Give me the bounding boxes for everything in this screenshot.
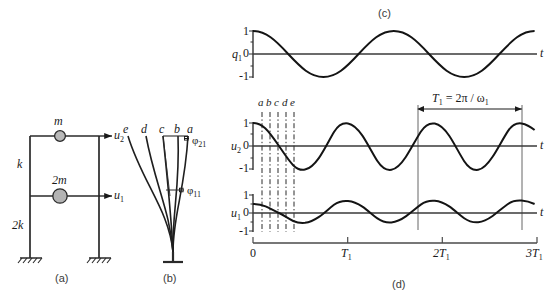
phi11-label: φ11 — [187, 184, 201, 199]
support-left — [18, 258, 42, 263]
panel-caption-c: (c) — [378, 7, 391, 19]
u2-marker-label-e: e — [290, 96, 295, 108]
q1-ytick-zero: 0 — [243, 46, 249, 61]
q1-ytick-bottom: -1 — [239, 69, 249, 84]
u2-ytick-top: 1 — [243, 116, 249, 131]
plot-q1 — [249, 30, 537, 78]
modeshape-label-c: c — [159, 122, 164, 137]
dof-label-u1: u1 — [114, 188, 124, 204]
frame-diagram — [18, 131, 112, 263]
q1-xaxis-label: t — [540, 46, 543, 61]
q1-axis-label: q1 — [232, 47, 242, 63]
phi21-label: φ21 — [192, 134, 206, 149]
u2-marker-label-a: a — [258, 96, 264, 108]
period-annotation-omega-sub: 1 — [485, 98, 489, 107]
period-annotation-t: T — [432, 91, 439, 105]
u1-ytick-top: 1 — [243, 188, 249, 203]
period-annotation-omega: ω — [477, 91, 485, 105]
xtick-label-0-main: 0 — [250, 246, 256, 260]
u1-waveform — [253, 201, 535, 223]
modeshape-curve-a — [173, 136, 188, 252]
u2-ytick-bottom: -1 — [239, 161, 249, 176]
support-right — [87, 258, 111, 263]
modeshape-curve-b — [173, 136, 178, 252]
mass-bottom-label: 2m — [52, 173, 67, 188]
u2-marker-label-b: b — [266, 96, 272, 108]
figure-root: m 2m k 2k u2 u1 e d c b a φ21 φ11 q1 1 0… — [0, 0, 554, 303]
q1-axis-label-sub: 1 — [238, 54, 242, 63]
panel-caption-a: (a) — [55, 272, 68, 284]
u1-ytick-bottom: -1 — [239, 224, 249, 239]
mass-bottom — [53, 189, 67, 203]
period-annotation: T1 = 2π / ω1 — [432, 91, 489, 107]
xtick-label-2T1-sub: 1 — [446, 253, 450, 262]
q1-ytick-top: 1 — [243, 24, 249, 39]
u1-xaxis-label: t — [540, 205, 543, 220]
panel-caption-d: (d) — [392, 278, 405, 290]
xtick-label-2T1: 2T1 — [433, 246, 450, 262]
u2-marker-label-d: d — [282, 96, 288, 108]
u2-marker-label-c: c — [274, 96, 279, 108]
figure-canvas — [0, 0, 554, 303]
u1-axis-label: u1 — [231, 206, 241, 222]
phi11-subscript: 11 — [193, 190, 201, 199]
u1-axis-label-sub: 1 — [237, 213, 241, 222]
u2-ytick-zero: 0 — [243, 138, 249, 153]
xtick-label-T1-main: T — [341, 246, 348, 260]
stiffness-top-label: k — [17, 157, 22, 172]
modeshape-label-b: b — [174, 122, 180, 137]
u2-xaxis-label: t — [540, 138, 543, 153]
modeshape-label-d: d — [141, 122, 147, 137]
modeshape-label-e: e — [123, 122, 128, 137]
xtick-label-0: 0 — [250, 246, 256, 261]
dof-label-u1-sub: 1 — [120, 195, 124, 204]
u2-axis-label-sub: 2 — [237, 146, 241, 155]
xtick-label-3T1: 3T1 — [526, 246, 543, 262]
modeshape-diagram — [128, 136, 189, 262]
xtick-label-3T1-main: 3T — [526, 246, 539, 260]
mass-top — [55, 131, 66, 142]
mass-top-label: m — [54, 114, 63, 129]
modeshape-axis-reference — [163, 136, 170, 196]
xtick-label-2T1-main: 2T — [433, 246, 446, 260]
stiffness-bottom-label: 2k — [12, 218, 23, 233]
u2-axis-label: u2 — [231, 139, 241, 155]
xtick-label-3T1-sub: 1 — [539, 253, 543, 262]
plot-u1 — [249, 194, 537, 243]
xtick-label-T1-sub: 1 — [348, 253, 352, 262]
phi21-subscript: 21 — [198, 140, 206, 149]
period-annotation-equals: = 2π / — [443, 91, 477, 105]
u1-ytick-zero: 0 — [243, 205, 249, 220]
u1-scale-bar-ticks — [253, 237, 537, 243]
panel-caption-b: (b) — [163, 272, 176, 284]
xtick-label-T1: T1 — [341, 246, 352, 262]
